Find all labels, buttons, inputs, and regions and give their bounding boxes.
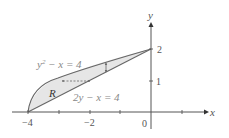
x-tick-label-neg4: −4 [22,117,33,128]
parabola-equation-label: y2 − x = 4 [36,58,82,70]
y-axis-label: y [147,9,153,21]
strip-endpoint-left [62,80,64,82]
y-tick-label-1: 1 [156,76,161,87]
y-axis-arrow-icon [149,22,154,27]
x-axis-label: x [209,106,215,118]
region-label: R [48,87,56,99]
parabola-eq-rest: − x = 4 [45,58,82,70]
x-axis-arrow-icon [204,110,209,115]
x-tick-label-neg2: −2 [84,117,95,128]
strip-endpoint-right [88,80,90,82]
y-tick-label-2: 2 [157,44,162,55]
region-diagram: −4 −2 0 1 2 x y y2 − x = 4 2y − x = 4 R [0,0,229,138]
x-tick-label-0: 0 [142,118,147,129]
line-equation-label: 2y − x = 4 [73,91,120,103]
